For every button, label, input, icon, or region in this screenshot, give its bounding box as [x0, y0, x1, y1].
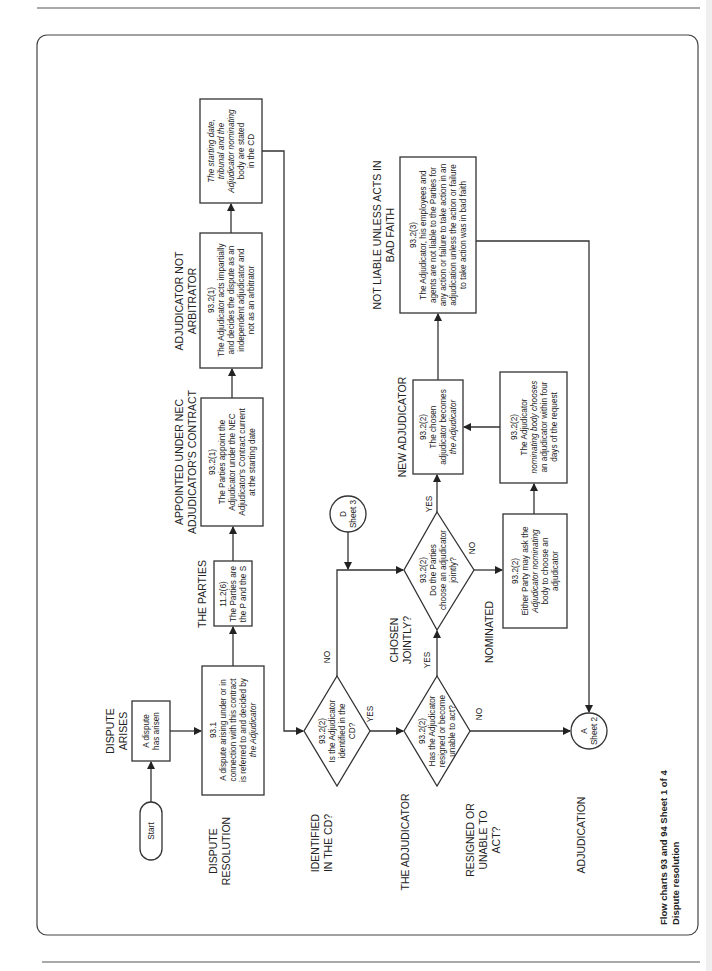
svg-text:The Parties are: The Parties are — [229, 566, 238, 622]
svg-text:THE PARTIES: THE PARTIES — [196, 560, 208, 628]
svg-text:an adjudicator within four: an adjudicator within four — [540, 381, 549, 472]
svg-text:the Adjudicator: the Adjudicator — [249, 703, 258, 758]
svg-text:to take action was in bad fait: to take action was in bad faith — [459, 181, 468, 289]
start-text: Start — [147, 822, 156, 840]
svg-text:Start: Start — [147, 822, 156, 840]
svg-text:NEW ADJUDICATOR: NEW ADJUDICATOR — [396, 376, 408, 477]
svg-text:adjudicator: adjudicator — [551, 551, 560, 591]
svg-text:days of the request: days of the request — [550, 391, 559, 461]
svg-text:NOMINATED: NOMINATED — [483, 600, 495, 663]
svg-text:the Adjudicator: the Adjudicator — [449, 400, 458, 455]
svg-text:is referred to and decided by: is referred to and decided by — [239, 677, 248, 782]
svg-text:DISPUTE: DISPUTE — [104, 708, 116, 754]
svg-text:93.2(2): 93.2(2) — [418, 718, 427, 744]
svg-text:body are stated: body are stated — [237, 122, 246, 179]
svg-text:adjudication unless the action: adjudication unless the action or failur… — [449, 164, 458, 306]
label-chosen-jointly: CHOSEN JOINTLY? — [388, 616, 413, 664]
svg-text:A dispute: A dispute — [142, 714, 151, 748]
svg-text:93.2(2): 93.2(2) — [318, 718, 327, 744]
svg-text:The chosen: The chosen — [429, 405, 438, 448]
label-the-parties: THE PARTIES — [196, 560, 208, 628]
label-dispute-resolution: DISPUTE RESOLUTION — [207, 817, 232, 885]
svg-text:Has the Adjudicator: Has the Adjudicator — [428, 695, 437, 766]
svg-text:agents are not liable to the P: agents are not liable to the Parties for — [429, 167, 438, 303]
svg-text:Dispute resolution: Dispute resolution — [670, 841, 681, 925]
svg-text:and decides the dispute as an: and decides the dispute as an — [227, 245, 236, 354]
edge-label-resigned-no: NO — [475, 708, 484, 720]
connector-a — [571, 713, 607, 749]
svg-text:Sheet 2: Sheet 2 — [590, 716, 599, 745]
svg-text:not as an arbitrator: not as an arbitrator — [247, 265, 256, 334]
svg-text:NO: NO — [468, 542, 477, 554]
svg-text:ADJUDICATOR'S CONTRACT: ADJUDICATOR'S CONTRACT — [186, 389, 198, 534]
svg-text:Sheet 3: Sheet 3 — [349, 499, 358, 528]
edge-label-identified-yes: YES — [366, 705, 375, 722]
edge-startdate-to-identified — [262, 151, 303, 731]
svg-text:Do the Parties: Do the Parties — [429, 544, 438, 596]
label-not-liable: NOT LIABLE UNLESS ACTS IN BAD FAITH — [371, 160, 396, 309]
svg-text:Flow charts 93 and 94 Sheet: Flow charts 93 and 94 Sheet 1 of 4 — [658, 770, 669, 925]
svg-text:The starting date,: The starting date, — [207, 119, 216, 183]
flowchart-diagram: DISPUTE ARISES DISPUTE RESOLUTION IDENTI… — [0, 0, 712, 971]
svg-text:ADJUDICATION: ADJUDICATION — [575, 797, 587, 874]
edge-label-jointly-yes: YES — [425, 495, 434, 512]
flowchart-page: DISPUTE ARISES DISPUTE RESOLUTION IDENTI… — [0, 0, 712, 971]
svg-text:unable to act?: unable to act? — [448, 705, 457, 757]
svg-text:93.2(1): 93.2(1) — [208, 449, 217, 475]
svg-text:ARISES: ARISES — [117, 712, 129, 751]
svg-text:93.2(1): 93.2(1) — [207, 287, 216, 313]
svg-text:at the starting date: at the starting date — [248, 428, 257, 496]
svg-text:The Adjudicator, his employees: The Adjudicator, his employees and — [419, 170, 428, 300]
label-not-arbitrator: ADJUDICATOR NOT ARBITRATOR — [173, 251, 198, 350]
svg-text:Adjudicator under the NEC: Adjudicator under the NEC — [228, 413, 237, 510]
svg-text:jointly?: jointly? — [449, 557, 458, 584]
svg-text:93.2(2): 93.2(2) — [419, 414, 428, 440]
svg-text:RESIGNED OR: RESIGNED OR — [464, 803, 476, 877]
svg-text:93.2(3): 93.2(3) — [409, 222, 418, 248]
svg-text:11.2(6): 11.2(6) — [219, 581, 228, 607]
svg-text:JOINTLY?: JOINTLY? — [401, 616, 413, 664]
svg-text:the P and the S: the P and the S — [239, 565, 248, 622]
sheet-title: Flow charts 93 and 94 Sheet 1 of 4 Dispu… — [658, 770, 681, 925]
svg-text:CD?: CD? — [348, 722, 357, 739]
dispute-arisen-text: A dispute has arisen — [142, 712, 161, 750]
svg-text:93.2(2): 93.2(2) — [511, 558, 520, 584]
svg-text:independent adjudicator and: independent adjudicator and — [237, 248, 246, 352]
svg-text:A: A — [580, 728, 589, 734]
svg-text:YES: YES — [423, 651, 432, 668]
svg-text:choose an adjudicator: choose an adjudicator — [439, 530, 448, 610]
svg-text:A dispute arising under or in: A dispute arising under or in — [219, 679, 228, 781]
svg-text:UNABLE TO: UNABLE TO — [477, 810, 489, 869]
decision-resigned — [404, 676, 470, 786]
svg-text:NOT LIABLE UNLESS ACTS IN: NOT LIABLE UNLESS ACTS IN — [371, 160, 383, 309]
diagram-frame — [37, 35, 698, 935]
svg-text:any action or failure to take: any action or failure to take action in … — [439, 163, 448, 306]
svg-text:NO: NO — [323, 651, 332, 663]
label-adjudication: ADJUDICATION — [575, 797, 587, 874]
label-appointed: APPOINTED UNDER NEC ADJUDICATOR'S CONTRA… — [173, 389, 198, 534]
connector-d — [330, 496, 366, 532]
svg-text:identified in the: identified in the — [338, 703, 347, 759]
svg-text:IN THE CD?: IN THE CD? — [322, 814, 334, 872]
svg-text:ADJUDICATOR NOT: ADJUDICATOR NOT — [173, 251, 185, 350]
svg-text:CHOSEN: CHOSEN — [388, 618, 400, 663]
svg-text:connection with this contract: connection with this contract — [229, 678, 238, 782]
svg-text:Either Party may ask the: Either Party may ask the — [521, 526, 530, 616]
svg-text:ACT?: ACT? — [490, 826, 502, 853]
svg-text:The Adjudicator: The Adjudicator — [520, 398, 529, 455]
svg-text:D: D — [339, 511, 348, 517]
svg-text:YES: YES — [366, 705, 375, 722]
svg-text:93.2(2): 93.2(2) — [510, 414, 519, 440]
svg-text:resigned or become: resigned or become — [438, 694, 447, 767]
svg-text:Adjudicator's Contract current: Adjudicator's Contract current — [238, 407, 247, 515]
svg-text:RESOLUTION: RESOLUTION — [220, 817, 232, 885]
decision-identified — [304, 676, 370, 786]
svg-text:93.1: 93.1 — [209, 722, 218, 738]
svg-text:NO: NO — [475, 708, 484, 720]
svg-text:ARBITRATOR: ARBITRATOR — [186, 267, 198, 334]
svg-text:Adjudicator nominating: Adjudicator nominating — [227, 109, 236, 194]
svg-text:Adjudicator nominating: Adjudicator nominating — [531, 529, 540, 614]
svg-text:adjudicator becomes: adjudicator becomes — [439, 389, 448, 465]
svg-text:THE ADJUDICATOR: THE ADJUDICATOR — [399, 793, 411, 890]
svg-text:tribunal and the: tribunal and the — [217, 122, 226, 179]
